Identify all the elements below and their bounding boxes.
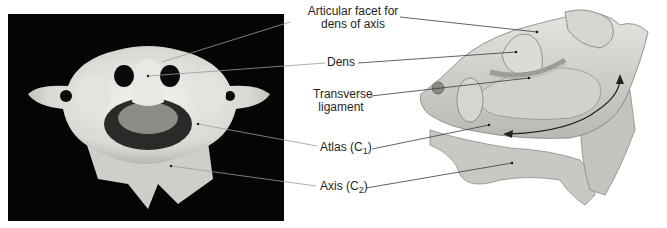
label-transverse-ligament: Transverse ligament [313, 88, 369, 114]
atlas-axis-photo [8, 14, 284, 221]
label-articular-facet: Articular facet for dens of axis [305, 5, 401, 31]
vertebra-photo-drawing [8, 14, 284, 221]
label-axis-close: ) [364, 179, 368, 193]
label-dens-text: Dens [327, 55, 355, 69]
label-axis-text: Axis (C [320, 179, 359, 193]
label-articular-facet-line2: dens of axis [305, 18, 401, 31]
atlas-axis-illustration [420, 0, 667, 228]
label-atlas-text: Atlas (C [320, 140, 363, 154]
label-dens: Dens [327, 56, 355, 69]
joint-illustration [420, 0, 667, 228]
label-axis: Axis (C2) [320, 180, 368, 193]
label-transverse-line2: ligament [313, 101, 369, 114]
label-atlas-close: ) [368, 140, 372, 154]
label-atlas: Atlas (C1) [320, 141, 372, 154]
